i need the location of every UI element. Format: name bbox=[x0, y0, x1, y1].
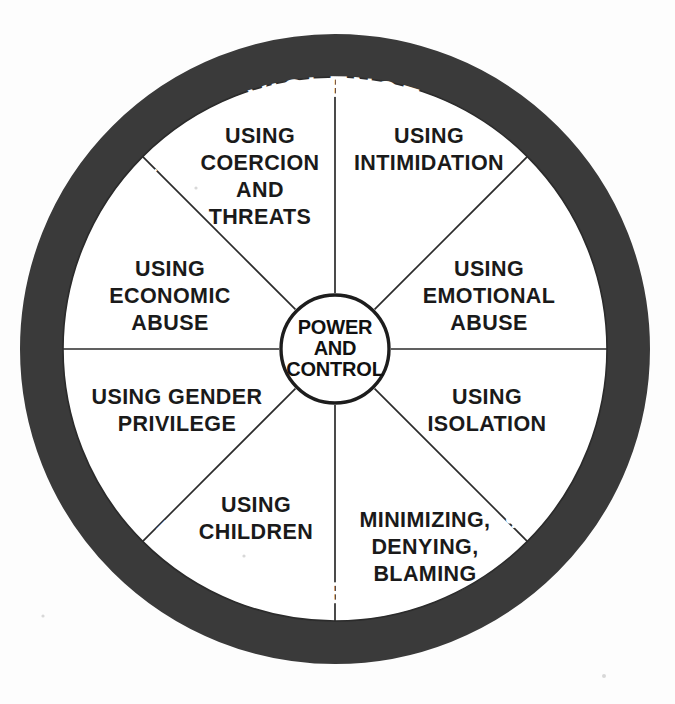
segment-line: USING GENDER bbox=[92, 385, 263, 409]
segment-line: THREATS bbox=[209, 205, 312, 229]
segment-minimizing-denying-blaming: MINIMIZING, DENYING, BLAMING bbox=[360, 508, 491, 586]
segment-line: ABUSE bbox=[131, 311, 208, 335]
segment-line: MINIMIZING, bbox=[360, 508, 491, 532]
segment-line: CHILDREN bbox=[199, 520, 313, 544]
segment-line: BLAMING bbox=[373, 562, 476, 586]
segment-line: USING bbox=[394, 124, 464, 148]
segment-line: INTIMIDATION bbox=[354, 151, 504, 175]
segment-line: ABUSE bbox=[450, 311, 527, 335]
hub-line-2: AND bbox=[314, 337, 357, 359]
segment-line: COERCION bbox=[200, 151, 319, 175]
segment-line: PRIVILEGE bbox=[118, 412, 236, 436]
segment-line: USING bbox=[135, 257, 205, 281]
hub-line-3: CONTROL bbox=[286, 358, 383, 380]
power-and-control-wheel-diagram: POWER AND CONTROL SEXUAL VIOLENCE PHYSIC… bbox=[0, 0, 675, 704]
segment-line: ECONOMIC bbox=[109, 284, 230, 308]
wheel-canvas: POWER AND CONTROL SEXUAL VIOLENCE PHYSIC… bbox=[0, 0, 675, 704]
segment-line: ISOLATION bbox=[427, 412, 546, 436]
segment-line: USING bbox=[454, 257, 524, 281]
segment-line: USING bbox=[221, 493, 291, 517]
segment-line: AND bbox=[236, 178, 284, 202]
segment-line: USING bbox=[225, 124, 295, 148]
segment-line: USING bbox=[452, 385, 522, 409]
hub-line-1: POWER bbox=[298, 316, 373, 338]
segment-line: EMOTIONAL bbox=[423, 284, 556, 308]
segment-line: DENYING, bbox=[371, 535, 478, 559]
